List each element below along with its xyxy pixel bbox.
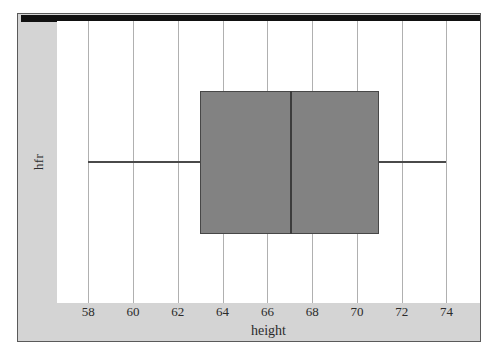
plot-panel: [57, 21, 480, 303]
x-axis-tick-labels: 586062646668707274: [57, 304, 480, 324]
gridline-74: [446, 21, 447, 303]
whisker-high-line: [379, 161, 446, 163]
y-axis-label: hfr: [31, 154, 47, 170]
x-tick-label-60: 60: [127, 304, 140, 320]
x-tick-label-64: 64: [216, 304, 229, 320]
figure-frame: hfr 586062646668707274 height: [17, 13, 481, 342]
x-tick-label-68: 68: [306, 304, 319, 320]
x-tick-label-72: 72: [395, 304, 408, 320]
x-tick-label-62: 62: [171, 304, 184, 320]
x-axis-label: height: [57, 323, 480, 339]
y-axis-label-strip: hfr: [21, 21, 57, 303]
whisker-low-line: [88, 161, 200, 163]
x-tick-label-74: 74: [440, 304, 453, 320]
median-line: [290, 91, 292, 234]
x-tick-label-58: 58: [82, 304, 95, 320]
x-tick-label-66: 66: [261, 304, 274, 320]
x-tick-label-70: 70: [350, 304, 363, 320]
